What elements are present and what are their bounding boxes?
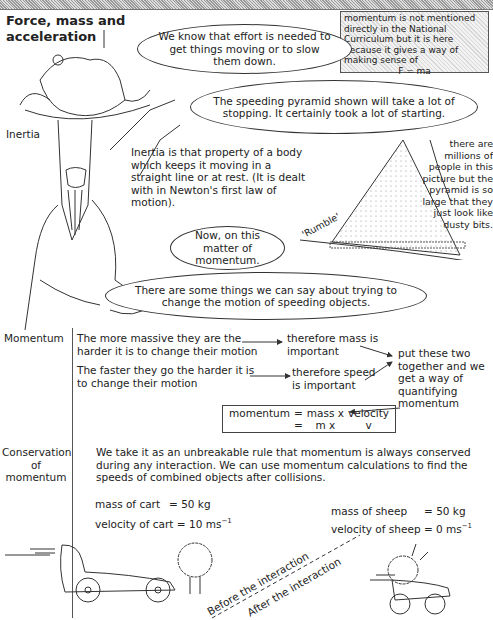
- formula-term: mass x: [305, 407, 346, 419]
- conservation-label-1: Conservation: [2, 446, 70, 459]
- side-note-text: momentum is not mentioned directly in th…: [344, 13, 475, 65]
- formula-term: v: [346, 419, 391, 431]
- formula-term: velocity: [346, 407, 391, 419]
- bubble-things-text: There are some things we can say about t…: [106, 284, 426, 309]
- bubble-effort-text: We know that effort is needed to get thi…: [138, 30, 351, 68]
- cart-velocity-exp: −1: [221, 517, 231, 525]
- sheep-mass-label: mass of sheep: [331, 505, 424, 518]
- momentum-speed-reason: The faster they go the harder it is to c…: [77, 364, 262, 389]
- momentum-label: Momentum: [4, 332, 64, 345]
- pyramid-caption: there are millions of people in this pic…: [410, 138, 493, 230]
- speech-bubble-effort: We know that effort is needed to get thi…: [137, 24, 352, 74]
- cart-mass-label: mass of cart: [95, 498, 169, 511]
- conservation-label-2: of: [2, 459, 70, 472]
- momentum-mass-reason: The more massive they are the harder it …: [77, 332, 262, 357]
- formula-term: m x: [305, 419, 346, 431]
- bubble-now-text: Now, on this matter of momentum.: [171, 229, 284, 267]
- sheep-velocity-exp: −1: [462, 522, 472, 530]
- inertia-definition: Inertia is that property of a body which…: [131, 146, 306, 209]
- side-note-formula: F = ma: [344, 66, 485, 77]
- momentum-formula-box: momentum = mass x velocity = m x v: [222, 405, 396, 433]
- formula-equals: =: [292, 407, 305, 419]
- side-note-box: momentum is not mentioned directly in th…: [340, 11, 489, 73]
- formula-term: momentum: [227, 407, 292, 419]
- cart-mass-value: = 50 kg: [169, 498, 211, 510]
- inertia-label: Inertia: [6, 128, 40, 141]
- sheep-mass-value: = 50 kg: [424, 505, 466, 517]
- conservation-text: We take it as an unbreakable rule that m…: [96, 446, 488, 484]
- cart-velocity-value: = 10 ms: [177, 517, 222, 529]
- cart-velocity-label: velocity of cart: [95, 517, 173, 529]
- speed-important: therefore speed is important: [292, 366, 387, 391]
- header-rule: [0, 0, 493, 10]
- formula-equals: =: [292, 419, 305, 431]
- speech-bubble-now: Now, on this matter of momentum.: [170, 226, 285, 270]
- formula-term: [227, 419, 292, 431]
- cart-values: mass of cart= 50 kg velocity of cart = 1…: [95, 498, 232, 530]
- speech-bubble-things: There are some things we can say about t…: [105, 272, 427, 320]
- speech-bubble-pyramid: The speeding pyramid shown will take a l…: [190, 80, 478, 134]
- conservation-label-3: momentum: [2, 471, 70, 484]
- bubble-pyramid-text: The speeding pyramid shown will take a l…: [191, 95, 477, 120]
- title-line-1: Force, mass and: [6, 13, 125, 29]
- put-together-text: put these two together and we get a way …: [398, 347, 488, 410]
- mass-important: therefore mass is important: [287, 332, 382, 357]
- conservation-label: Conservation of momentum: [2, 446, 70, 484]
